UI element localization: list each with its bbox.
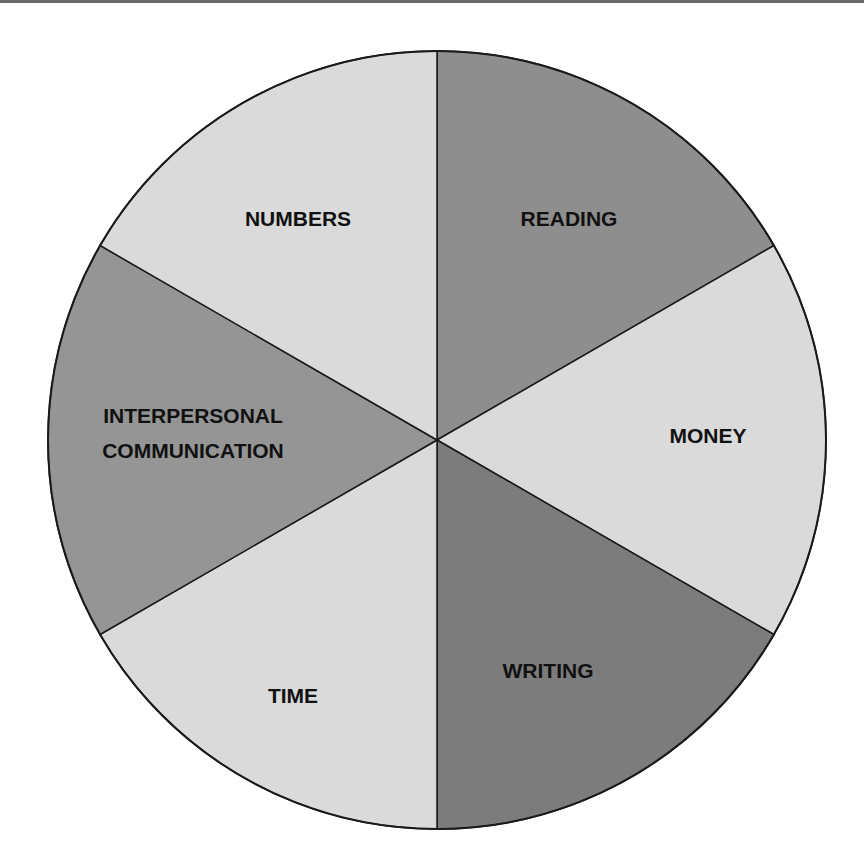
label-interpersonal: INTERPERSONAL [103,404,283,427]
label-time: TIME [268,684,318,707]
label-numbers: NUMBERS [245,207,351,230]
label-money: MONEY [669,424,746,447]
label-reading: READING [521,207,618,230]
pie-chart: READING MONEY WRITING TIME INTERPERSONAL… [0,0,864,868]
label-communication: COMMUNICATION [102,439,284,462]
label-writing: WRITING [503,659,594,682]
